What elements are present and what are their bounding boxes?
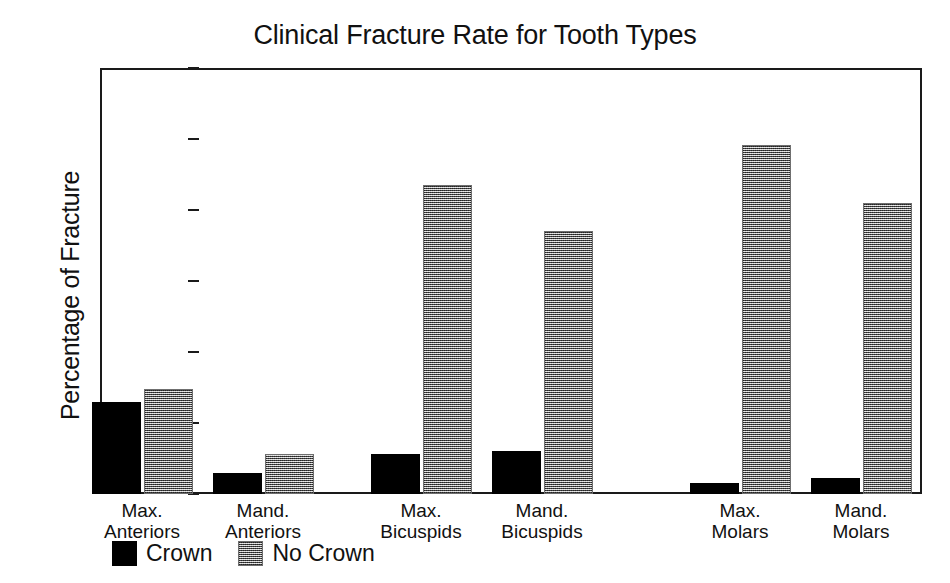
x-category-label-line1: Mand. [183, 500, 343, 521]
legend-label: No Crown [272, 540, 374, 567]
y-axis-label: Percentage of Fracture [56, 76, 85, 516]
bar-crown [213, 473, 262, 494]
x-category-label-line1: Mand. [781, 500, 941, 521]
y-tick-mark [188, 351, 199, 353]
checkered-gray-swatch [238, 541, 263, 566]
legend-entry: No Crown [238, 540, 374, 567]
bar-no-crown [423, 185, 472, 494]
bar-crown [690, 483, 739, 494]
y-tick-mark [188, 67, 199, 69]
x-category-label-line1: Mand. [462, 500, 622, 521]
bar-crown [92, 402, 141, 494]
bar-crown [811, 478, 860, 494]
plot-area: 0102030405060 [100, 68, 922, 494]
bar-no-crown [265, 454, 314, 494]
bar-crown [371, 454, 420, 494]
y-tick-mark [188, 138, 199, 140]
bar-no-crown [742, 145, 791, 494]
x-category-label-line2: Bicuspids [462, 521, 622, 542]
bar-no-crown [144, 389, 193, 494]
x-category-label-line2: Anteriors [183, 521, 343, 542]
legend-label: Crown [146, 540, 212, 567]
solid-black-swatch [112, 541, 137, 566]
chart-title: Clinical Fracture Rate for Tooth Types [0, 20, 950, 51]
x-category-label: Mand.Bicuspids [462, 500, 622, 542]
y-tick-mark [188, 209, 199, 211]
bar-chart-figure: Clinical Fracture Rate for Tooth Types P… [0, 0, 950, 583]
bar-no-crown [863, 203, 912, 494]
x-category-label-line2: Molars [781, 521, 941, 542]
y-tick-mark [188, 280, 199, 282]
chart-legend: CrownNo Crown [112, 540, 375, 567]
bar-crown [492, 451, 541, 494]
legend-entry: Crown [112, 540, 212, 567]
x-category-label: Mand.Anteriors [183, 500, 343, 542]
bar-no-crown [544, 231, 593, 494]
x-category-label: Mand.Molars [781, 500, 941, 542]
